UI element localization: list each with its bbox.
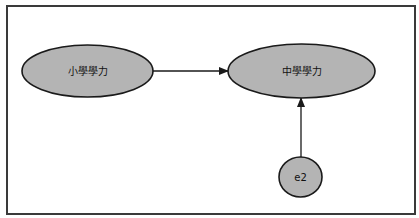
node-e2-label: e2: [294, 172, 307, 183]
path-diagram: 小學學力 中學學力 e2: [0, 0, 419, 218]
node-elementary-label: 小學學力: [68, 65, 108, 77]
node-middle-ability[interactable]: 中學學力: [228, 44, 375, 98]
node-middle-label: 中學學力: [282, 65, 322, 77]
node-error-e2[interactable]: e2: [279, 157, 322, 197]
node-elementary-ability[interactable]: 小學學力: [22, 45, 153, 97]
